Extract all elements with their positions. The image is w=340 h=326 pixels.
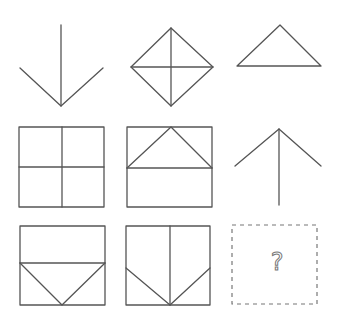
cell-r2c2-square-top-triangle [127,127,212,207]
figure-matrix [0,0,340,326]
cell-r3c2-square-split-v [126,226,210,305]
cell-r2c1-quartered-square [19,127,104,207]
cell-r2c3-up-arrow [235,129,321,205]
cell-r3c1-square-bottom-v [20,226,105,305]
cell-r1c3-triangle [237,25,321,66]
cell-r1c2-diamond [131,28,213,106]
question-mark-icon: ? [262,250,292,274]
cell-r1c1-down-arrow [20,25,103,106]
